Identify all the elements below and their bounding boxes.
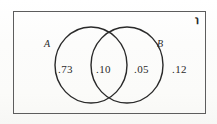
region-value-outside: .12 (172, 63, 187, 75)
venn-circles-layer (0, 0, 217, 124)
set-a-label: A (44, 38, 50, 49)
region-value-b-only: .05 (134, 63, 149, 75)
set-b-label: B (157, 38, 163, 49)
universal-set-label: ℩ (195, 13, 199, 28)
venn-diagram-figure: ℩ A B .73 .10 .05 .12 (0, 0, 217, 124)
region-value-a-intersect-b: .10 (96, 63, 111, 75)
region-value-a-only: .73 (58, 63, 73, 75)
